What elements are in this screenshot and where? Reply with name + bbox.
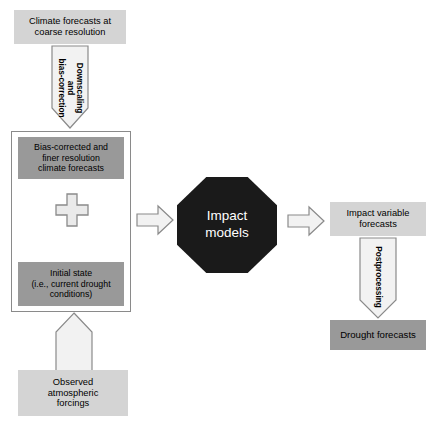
workflow-diagram: Climate forecasts at coarse resolution D… [0, 0, 432, 429]
node-observed-forcings-label: Observed atmospheric forcings [48, 377, 99, 410]
node-initial-state: Initial state (i.e., current drought con… [18, 262, 124, 306]
arrow-models-to-outputs [287, 206, 325, 236]
arrow-forcings-up-shape [52, 312, 96, 374]
node-impact-variable-forecasts-label: Impact variable forecasts [346, 208, 409, 230]
symbol-combine-plus [55, 193, 89, 227]
node-climate-forecasts-coarse: Climate forecasts at coarse resolution [14, 10, 126, 44]
node-initial-state-label: Initial state (i.e., current drought con… [31, 268, 110, 299]
arrow-downscaling-label-text: Downscaling and bias-correction [56, 58, 84, 117]
node-impact-models-label: Impact models [205, 208, 249, 242]
node-impact-models: Impact models [177, 177, 277, 273]
node-bias-corrected-finer: Bias-corrected and finer resolution clim… [18, 137, 124, 179]
arrow-inputs-to-models-shape [136, 205, 174, 235]
node-bias-corrected-finer-label: Bias-corrected and finer resolution clim… [34, 142, 108, 173]
arrow-models-to-outputs-shape [287, 206, 325, 236]
arrow-downscaling-label: Downscaling and bias-correction [56, 58, 84, 117]
node-drought-forecasts-label: Drought forecasts [340, 329, 416, 340]
arrow-postprocessing-label-text: Postprocessing [374, 246, 383, 307]
node-drought-forecasts: Drought forecasts [330, 320, 426, 350]
plus-icon [55, 193, 89, 227]
arrow-forcings-up [52, 312, 96, 374]
node-observed-forcings: Observed atmospheric forcings [18, 370, 128, 416]
node-impact-variable-forecasts: Impact variable forecasts [330, 202, 426, 236]
arrow-postprocessing-label: Postprocessing [373, 246, 382, 307]
arrow-inputs-to-models [136, 205, 174, 235]
node-climate-forecasts-coarse-label: Climate forecasts at coarse resolution [29, 16, 111, 38]
